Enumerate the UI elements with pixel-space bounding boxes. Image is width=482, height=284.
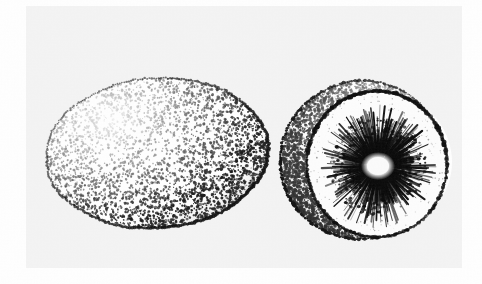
figure-root — [0, 0, 482, 284]
central-core — [367, 157, 389, 175]
kiwifruit-illustration — [0, 0, 482, 284]
